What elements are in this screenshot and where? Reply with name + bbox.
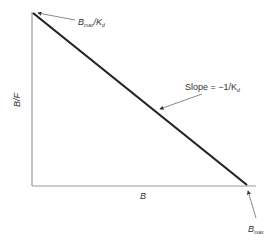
x-intercept-arrow: [248, 191, 256, 218]
y-intercept-arrow: [38, 13, 75, 20]
slope-arrow: [160, 94, 202, 109]
x-axis-label: B: [140, 191, 146, 201]
y-axis-label: B/F: [12, 93, 22, 108]
y-intercept-label: Bmax/Kd: [78, 17, 105, 28]
x-intercept-label: Bmax: [248, 224, 264, 235]
scatchard-chart: B/F B Bmax/Kd Slope = −1/Kd Bmax: [0, 0, 278, 241]
data-line: [33, 13, 247, 185]
slope-label: Slope = −1/Kd: [185, 82, 240, 93]
